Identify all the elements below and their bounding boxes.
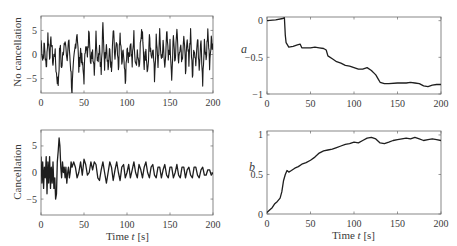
x-tick-label: 50 xyxy=(306,218,316,229)
x-tick-label: 0 xyxy=(265,218,270,229)
x-tick-label: 200 xyxy=(434,218,449,229)
y-tick-label: 1 xyxy=(258,129,263,140)
x-tick-label: 100 xyxy=(347,218,362,229)
data-line xyxy=(267,137,441,212)
y-tick-label: 0 xyxy=(258,209,263,220)
panel-b: b 05010015020000.51 Time t [s] xyxy=(0,0,457,246)
x-tick-label: 150 xyxy=(390,218,405,229)
plot-b: 05010015020000.51 xyxy=(0,0,457,246)
xlabel-time-right: Time t [s] xyxy=(332,229,375,241)
axes-box xyxy=(267,131,441,214)
y-tick-label: 0.5 xyxy=(251,169,264,180)
